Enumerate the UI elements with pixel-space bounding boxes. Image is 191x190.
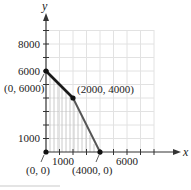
y-axis-label: y xyxy=(41,0,48,13)
point-label-2000-4000: (2000, 4000) xyxy=(77,83,134,96)
vertex-0-6000 xyxy=(43,68,48,73)
y-axis-arrow-icon xyxy=(43,13,49,21)
y-tick-6000: 6000 xyxy=(18,65,41,77)
point-label-0-0: (0, 0) xyxy=(26,164,50,177)
vertex-0-0 xyxy=(43,149,48,154)
x-axis-label: x xyxy=(182,145,189,159)
point-label-4000-0: (4000, 0) xyxy=(72,164,113,177)
point-label-0-6000: (0, 6000) xyxy=(4,82,45,95)
x-tick-6000: 6000 xyxy=(116,155,139,167)
y-tick-8000: 8000 xyxy=(18,38,41,50)
feasible-region-chart: 8000 6000 1000 1000 6000 x y (0, 6000) (… xyxy=(0,0,191,190)
x-axis-arrow-icon xyxy=(173,149,181,155)
vertex-2000-4000 xyxy=(70,95,75,100)
vertex-4000-0 xyxy=(97,149,102,154)
y-tick-1000: 1000 xyxy=(18,132,41,144)
